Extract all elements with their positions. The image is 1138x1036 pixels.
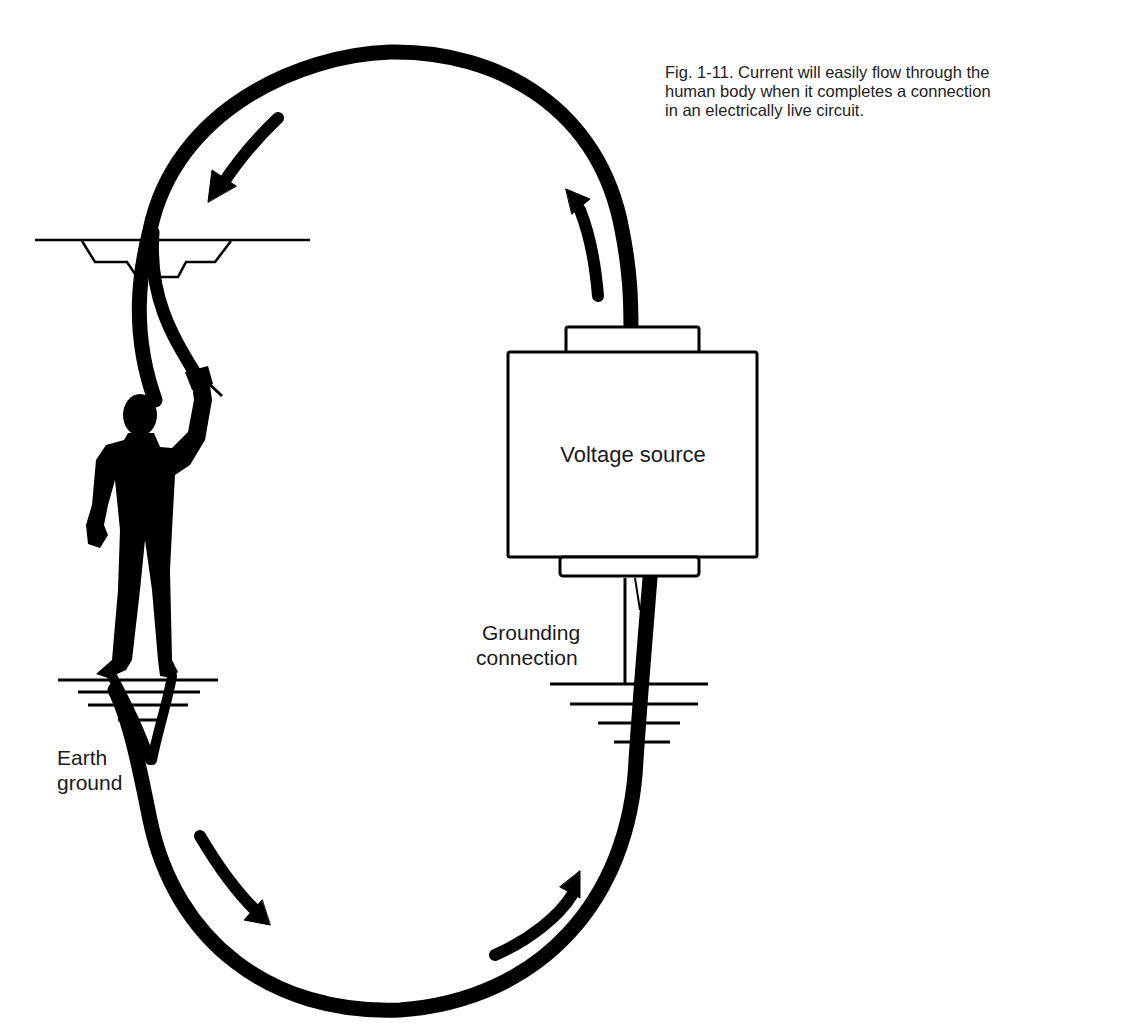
label-line: connection (476, 645, 580, 670)
caption-line: Fig. 1-11. Current will easily flow thro… (665, 63, 1135, 82)
human-silhouette (86, 366, 222, 678)
label-line: Grounding (476, 620, 580, 645)
ceiling-fixture (35, 240, 310, 277)
label-line: ground (57, 770, 122, 795)
earth-ground-label: Earth ground (57, 745, 122, 795)
circuit-diagram (0, 0, 1138, 1036)
voltage-source-label: Voltage source (508, 442, 758, 467)
figure-caption: Fig. 1-11. Current will easily flow thro… (665, 63, 1135, 120)
label-line: Earth (57, 745, 122, 770)
caption-line: human body when it completes a connectio… (665, 82, 1135, 101)
grounding-connection-label: Grounding connection (476, 620, 580, 670)
caption-line: in an electrically live circuit. (665, 101, 1135, 120)
